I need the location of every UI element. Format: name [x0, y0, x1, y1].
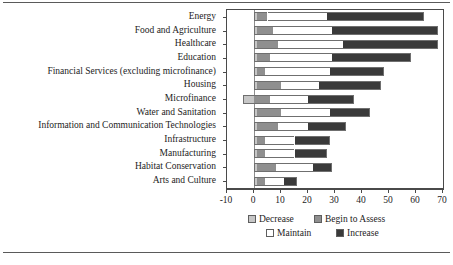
bar-segment-maintain	[265, 67, 330, 76]
x-axis-tick-label: 70	[437, 195, 447, 206]
category-label: Education	[0, 52, 216, 62]
legend-swatch-begin-to-assess	[314, 215, 322, 223]
x-axis-tick	[253, 189, 254, 193]
bar-segment-begin-to-assess	[257, 40, 279, 49]
bar-segment-begin-to-assess	[257, 108, 281, 117]
chart-legend: DecreaseBegin to AssessMaintainIncrease	[226, 214, 444, 246]
bar-segment-maintain	[273, 26, 332, 35]
bar-row	[227, 26, 443, 35]
bar-segment-increase	[332, 26, 437, 35]
category-label: Water and Sanitation	[0, 107, 216, 117]
category-label: Financial Services (excluding microfinan…	[0, 66, 216, 76]
bar-row	[227, 40, 443, 49]
legend-swatch-increase	[336, 229, 344, 237]
category-label: Food and Agriculture	[0, 25, 216, 35]
category-label: Information and Communication Technologi…	[0, 120, 216, 130]
bar-segment-maintain	[278, 40, 343, 49]
stacked-bar-chart: EnergyFood and AgricultureHealthcareEduc…	[0, 0, 453, 265]
bar-segment-maintain	[281, 81, 319, 90]
legend-label: Begin to Assess	[325, 214, 385, 224]
bar-segment-increase	[330, 108, 371, 117]
bar-segment-increase	[330, 67, 384, 76]
bar-row	[227, 177, 443, 186]
x-axis-tick-label: -10	[220, 195, 233, 206]
bar-segment-maintain	[270, 53, 332, 62]
x-axis-tick	[388, 189, 389, 193]
x-axis-line	[226, 189, 444, 190]
bar-segment-maintain	[270, 95, 308, 104]
bar-segment-begin-to-assess	[257, 67, 265, 76]
x-axis-tick	[226, 189, 227, 193]
bar-segment-increase	[284, 177, 298, 186]
bar-segment-maintain	[268, 12, 327, 21]
bar-row	[227, 81, 443, 90]
bar-segment-begin-to-assess	[257, 149, 265, 158]
bar-segment-maintain	[265, 149, 295, 158]
legend-item-begin-to-assess: Begin to Assess	[314, 214, 385, 225]
bar-row	[227, 67, 443, 76]
legend-swatch-maintain	[266, 229, 274, 237]
category-label: Infrastructure	[0, 134, 216, 144]
bar-row	[227, 95, 443, 104]
x-axis-tick	[334, 189, 335, 193]
legend-swatch-decrease	[248, 215, 256, 223]
bar-row	[227, 53, 443, 62]
category-axis-labels: EnergyFood and AgricultureHealthcareEduc…	[0, 9, 216, 189]
bar-segment-begin-to-assess	[257, 163, 276, 172]
category-label: Healthcare	[0, 38, 216, 48]
category-label: Housing	[0, 79, 216, 89]
bar-segment-begin-to-assess	[257, 53, 271, 62]
x-axis-tick-label: 60	[410, 195, 420, 206]
bar-segment-maintain	[278, 122, 308, 131]
bar-segment-maintain	[265, 177, 284, 186]
category-label: Energy	[0, 11, 216, 21]
legend-item-decrease: Decrease	[248, 214, 294, 225]
bar-segment-begin-to-assess	[257, 12, 268, 21]
x-axis-tick-label: 50	[383, 195, 393, 206]
bar-segment-increase	[327, 12, 424, 21]
legend-label: Increase	[347, 228, 379, 238]
category-label: Manufacturing	[0, 148, 216, 158]
x-axis-tick-label: 0	[251, 195, 256, 206]
category-label: Microfinance	[0, 93, 216, 103]
x-axis-tick-label: 20	[302, 195, 312, 206]
bar-segment-increase	[308, 95, 354, 104]
bar-row	[227, 149, 443, 158]
bar-segment-increase	[332, 53, 410, 62]
category-label: Arts and Culture	[0, 175, 216, 185]
legend-label: Decrease	[259, 214, 294, 224]
bar-segment-increase	[295, 149, 327, 158]
x-axis-tick	[280, 189, 281, 193]
x-axis-tick	[307, 189, 308, 193]
x-axis-tick-label: 10	[275, 195, 285, 206]
plot-area	[226, 9, 444, 189]
bar-segment-maintain	[276, 163, 314, 172]
x-axis-tick	[415, 189, 416, 193]
bar-segment-increase	[319, 81, 381, 90]
x-axis-tick-label: 30	[329, 195, 339, 206]
bar-row	[227, 12, 443, 21]
bar-row	[227, 108, 443, 117]
bar-segment-begin-to-assess	[257, 177, 265, 186]
x-axis-tick	[361, 189, 362, 193]
bar-row	[227, 136, 443, 145]
bar-segment-begin-to-assess	[257, 122, 279, 131]
bar-segment-increase	[295, 136, 330, 145]
bar-segment-increase	[343, 40, 438, 49]
plot-inner	[227, 10, 443, 188]
bar-segment-begin-to-assess	[257, 136, 265, 145]
bar-segment-increase	[308, 122, 346, 131]
x-axis-tick-label: 40	[356, 195, 366, 206]
bar-segment-decrease	[243, 95, 254, 104]
x-axis-tick	[442, 189, 443, 193]
bar-segment-increase	[313, 163, 332, 172]
bar-row	[227, 163, 443, 172]
bar-segment-begin-to-assess	[257, 81, 281, 90]
bar-segment-maintain	[281, 108, 330, 117]
legend-label: Maintain	[277, 228, 311, 238]
bar-segment-begin-to-assess	[254, 95, 270, 104]
legend-item-increase: Increase	[336, 228, 379, 239]
legend-item-maintain: Maintain	[266, 228, 311, 239]
bar-segment-maintain	[265, 136, 295, 145]
category-label: Habitat Conservation	[0, 161, 216, 171]
